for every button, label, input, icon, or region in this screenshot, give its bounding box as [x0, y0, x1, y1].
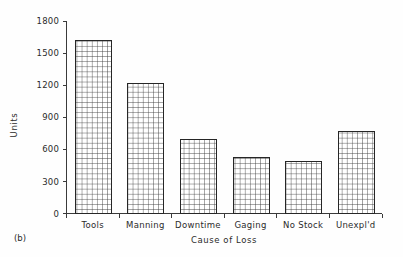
category-label: Downtime	[175, 220, 221, 230]
bar	[76, 41, 112, 214]
category-label: Tools	[81, 220, 105, 230]
x-axis-title: Cause of Loss	[191, 235, 257, 245]
category-label: Gaging	[234, 220, 266, 230]
axes-group	[66, 21, 382, 214]
bar	[286, 162, 322, 214]
category-labels: ToolsManningDowntimeGagingNo StockUnexpl…	[81, 220, 376, 230]
y-tick-label: 1800	[37, 16, 59, 26]
bar	[181, 140, 217, 214]
category-label: No Stock	[283, 220, 323, 230]
x-axis-ticks	[67, 214, 383, 218]
bars-group	[76, 41, 375, 214]
y-tick-label: 300	[42, 177, 59, 187]
category-label: Manning	[126, 220, 165, 230]
bar	[234, 158, 270, 214]
y-tick-label: 600	[42, 144, 59, 154]
panel-caption: (b)	[14, 233, 26, 243]
bar-chart: 0300600900120015001800 ToolsManningDownt…	[0, 0, 403, 257]
bar	[339, 132, 375, 214]
y-axis-ticks: 0300600900120015001800	[37, 16, 67, 219]
category-label: Unexpl'd	[336, 220, 376, 230]
y-tick-label: 1200	[37, 80, 59, 90]
y-axis-title: Units	[9, 113, 19, 138]
y-tick-label: 900	[42, 112, 59, 122]
y-tick-label: 0	[53, 209, 59, 219]
y-tick-label: 1500	[37, 48, 59, 58]
bar	[128, 84, 164, 214]
figure-panel: 0300600900120015001800 ToolsManningDownt…	[0, 0, 403, 257]
